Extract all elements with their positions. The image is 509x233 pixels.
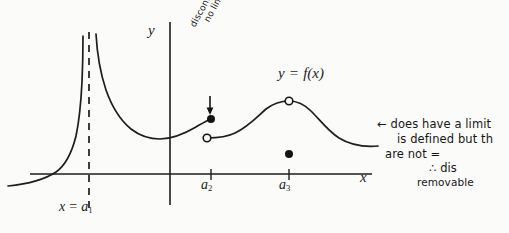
asymptote-label: x=a1 bbox=[59, 200, 92, 215]
annotation-right-note: ← does have a limit is defined but th ar… bbox=[377, 118, 509, 188]
annotation-right-line1: ← does have a limit bbox=[377, 118, 509, 131]
y-axis-label: y bbox=[148, 23, 155, 38]
x-axis-label: x bbox=[360, 170, 367, 185]
asymptote-label-equals: = bbox=[69, 199, 77, 214]
annotation-right-line3: are not = bbox=[385, 148, 509, 161]
discontinuity-arrow bbox=[207, 96, 214, 115]
filled-point-a3 bbox=[285, 150, 293, 158]
curve-left-branch bbox=[8, 36, 83, 186]
annotation-right-line2: is defined but th bbox=[397, 133, 509, 146]
asymptote-label-sub: 1 bbox=[88, 205, 92, 215]
curve-right-branch bbox=[207, 101, 378, 146]
open-point-a3 bbox=[285, 97, 293, 105]
annotation-right-line4: ∴ dis bbox=[429, 162, 509, 175]
curve-label-equals: = bbox=[290, 65, 298, 81]
tick-label-a2-sub: 2 bbox=[208, 183, 212, 193]
tick-label-a2-base: a bbox=[201, 177, 208, 192]
curve-asymptote-right-branch bbox=[96, 34, 211, 139]
tick-label-a2: a2 bbox=[201, 178, 212, 193]
asymptote-label-lhs: x bbox=[59, 199, 65, 214]
tick-label-a3-base: a bbox=[279, 177, 286, 192]
filled-point-a2 bbox=[207, 115, 215, 123]
tick-label-a3-sub: 3 bbox=[286, 183, 290, 193]
figure-canvas: y x a2 a3 x=a1 y=f(x) discontinuous no l… bbox=[0, 0, 509, 233]
open-point-a2 bbox=[203, 134, 211, 142]
curve-label-rhs: f(x) bbox=[303, 65, 324, 81]
curve-label-lhs: y bbox=[278, 65, 285, 81]
curve-label: y=f(x) bbox=[278, 66, 324, 81]
annotation-right-line5: removable bbox=[417, 177, 509, 189]
tick-label-a3: a3 bbox=[279, 178, 290, 193]
